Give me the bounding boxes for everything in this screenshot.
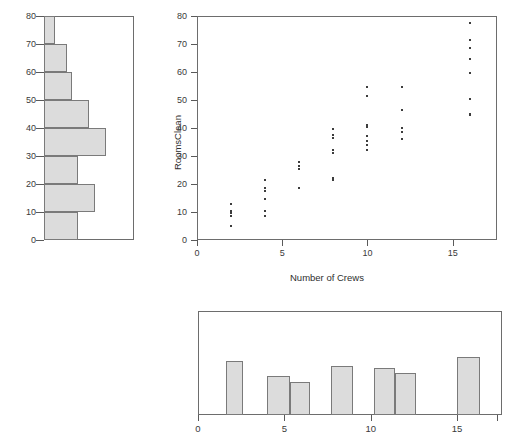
left-hist-tick-label-group: 01020304050607080 [0, 0, 36, 265]
left-hist-y-tick [36, 44, 44, 45]
scatter-y-tick-label: 20 [161, 180, 187, 189]
scatter-data-point [332, 179, 334, 181]
scatter-x-tick [282, 240, 283, 246]
left-hist-y-tick-label: 60 [6, 68, 36, 77]
left-hist-y-tick [36, 16, 44, 17]
scatter-data-point [401, 86, 403, 88]
scatter-data-point [332, 149, 334, 151]
scatter-x-tick-label: 5 [269, 249, 295, 258]
bottom-hist-bar [395, 373, 416, 415]
scatter-y-tick-label: 50 [161, 96, 187, 105]
scatter-data-point [366, 95, 368, 97]
scatter-data-point [401, 131, 403, 133]
scatter-data-point [332, 128, 334, 130]
bottom-hist-x-tick [371, 415, 372, 421]
rooms-clean-marginal-histogram-panel: 01020304050607080 [0, 0, 160, 265]
left-hist-y-tick-label: 80 [6, 12, 36, 21]
scatter-data-point [264, 190, 266, 192]
scatter-data-point [264, 198, 266, 200]
left-hist-y-tick-label: 40 [6, 124, 36, 133]
scatter-data-point [366, 149, 368, 151]
left-hist-y-tick-label: 50 [6, 96, 36, 105]
bottom-hist-x-tick [284, 415, 285, 421]
left-hist-y-tick-label: 0 [6, 236, 36, 245]
scatter-x-tick [197, 240, 198, 246]
scatter-data-point [298, 168, 300, 170]
scatter-data-point [469, 22, 471, 24]
scatter-y-tick-label: 0 [161, 236, 187, 245]
bottom-hist-x-tick-label: 15 [444, 424, 470, 434]
scatter-data-point [401, 127, 403, 129]
scatter-y-tick-label: 60 [161, 68, 187, 77]
left-hist-y-tick [36, 212, 44, 213]
left-hist-y-tick-label: 10 [6, 208, 36, 217]
scatter-data-point [366, 126, 368, 128]
scatter-data-point [469, 58, 471, 60]
left-hist-y-tick [36, 240, 44, 241]
scatter-data-point [264, 210, 266, 212]
scatter-data-point [469, 47, 471, 49]
scatter-y-tick-label: 70 [161, 40, 187, 49]
scatter-data-point [230, 215, 232, 217]
scatter-y-tick-label: 10 [161, 208, 187, 217]
scatter-data-point [366, 135, 368, 137]
bottom-hist-x-tick [198, 415, 199, 421]
left-hist-bar [44, 16, 55, 44]
scatter-y-tick [191, 128, 197, 129]
scatter-data-point [298, 187, 300, 189]
scatter-data-point [366, 144, 368, 146]
scatter-x-tick-label: 10 [354, 249, 380, 258]
scatter-y-tick-label: 80 [161, 12, 187, 21]
bottom-hist-bar [267, 376, 289, 415]
scatter-plot-panel: RoomsClean Number of Crews 0102030405060… [160, 0, 529, 300]
scatter-y-tick [191, 212, 197, 213]
left-hist-y-tick [36, 72, 44, 73]
scatter-data-point [230, 210, 232, 212]
bottom-hist-bar [457, 357, 479, 415]
scatter-x-axis-title: Number of Crews [290, 272, 364, 283]
left-hist-bar [44, 100, 89, 128]
left-hist-y-tick-label: 30 [6, 152, 36, 161]
scatter-data-point [298, 161, 300, 163]
scatter-plot-frame [197, 16, 497, 240]
scatter-x-tick-label: 0 [184, 249, 210, 258]
left-hist-y-tick [36, 128, 44, 129]
scatter-y-tick [191, 184, 197, 185]
scatter-data-point [332, 152, 334, 154]
bottom-hist-bar [374, 368, 395, 415]
bottom-hist-x-tick-label: 5 [271, 424, 297, 434]
left-hist-y-tick-label: 70 [6, 40, 36, 49]
scatter-data-point [264, 179, 266, 181]
left-hist-bar [44, 44, 67, 72]
left-hist-y-tick [36, 184, 44, 185]
left-hist-bar [44, 72, 72, 100]
bottom-hist-bar [331, 366, 353, 415]
scatter-data-point [332, 137, 334, 139]
left-hist-bar [44, 184, 95, 212]
scatter-data-point [469, 114, 471, 116]
scatter-y-tick [191, 100, 197, 101]
bottom-hist-x-tick-label: 10 [358, 424, 384, 434]
scatter-data-point [332, 134, 334, 136]
scatter-data-point [230, 203, 232, 205]
left-hist-bar [44, 212, 78, 240]
bottom-hist-x-tick-label: 0 [185, 424, 211, 434]
left-hist-y-tick [36, 156, 44, 157]
bottom-hist-x-tick [497, 415, 498, 421]
scatter-data-point [230, 225, 232, 227]
scatter-data-point [298, 165, 300, 167]
number-of-crews-marginal-histogram-panel: 051015 [190, 305, 520, 437]
left-hist-bar [44, 128, 106, 156]
scatter-data-point [366, 140, 368, 142]
scatter-x-tick-label: 15 [440, 249, 466, 258]
left-hist-bar [44, 156, 78, 184]
scatter-data-point [469, 72, 471, 74]
scatter-x-tick [453, 240, 454, 246]
scatter-data-point [264, 187, 266, 189]
scatter-y-tick [191, 156, 197, 157]
scatter-data-point [401, 138, 403, 140]
scatter-x-tick [367, 240, 368, 246]
scatter-y-tick-label: 40 [161, 124, 187, 133]
scatter-data-point [469, 39, 471, 41]
scatter-y-tick [191, 72, 197, 73]
